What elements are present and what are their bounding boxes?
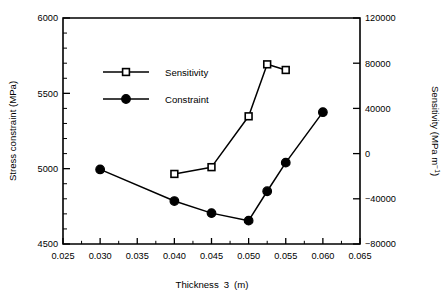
data-point: [282, 67, 289, 74]
y-tick-label: 4500: [38, 239, 58, 249]
legend-marker-open-square: [123, 69, 130, 76]
legend-label: Constraint: [165, 94, 209, 105]
y2-tick-label: −80000: [365, 239, 396, 249]
y-axis-left-title: Stress constraint (MPa): [7, 81, 18, 181]
data-point: [171, 171, 178, 178]
y-tick-label: 5000: [38, 164, 58, 174]
data-point: [281, 158, 290, 167]
y-axis-right-title: Sensitivity (MPa m−1): [430, 86, 441, 176]
x-tick-label: 0.055: [274, 251, 297, 261]
legend-marker-filled-circle: [122, 95, 131, 104]
x-tick-label: 0.040: [163, 251, 186, 261]
y-axis-right-title-main: Sensitivity (MPa m: [430, 86, 441, 165]
x-tick-label: 0.045: [200, 251, 223, 261]
data-point: [319, 108, 328, 117]
y2-tick-label: 0: [365, 149, 370, 159]
x-axis-title-part2: 3: [224, 279, 229, 290]
x-axis-title-part3: (m): [234, 279, 248, 290]
legend-label: Sensitivity: [165, 67, 208, 78]
data-point: [244, 216, 253, 225]
data-point: [264, 61, 271, 68]
y2-tick-label: 40000: [365, 104, 391, 114]
data-point: [96, 165, 105, 174]
data-point: [207, 209, 216, 218]
data-point: [170, 197, 179, 206]
x-tick-label: 0.030: [89, 251, 112, 261]
x-tick-label: 0.025: [52, 251, 75, 261]
x-axis-title-part1: Thickness: [176, 279, 219, 290]
data-point: [245, 113, 252, 120]
x-axis-title: Thickness3(m): [176, 279, 249, 290]
chart-figure: 0.0250.0300.0350.0400.0450.0500.0550.060…: [0, 0, 444, 301]
y2-tick-label: 120000: [365, 13, 396, 23]
x-axis-tick-labels: 0.0250.0300.0350.0400.0450.0500.0550.060…: [52, 251, 372, 261]
y-tick-label: 6000: [38, 13, 58, 23]
x-tick-label: 0.050: [237, 251, 260, 261]
x-tick-label: 0.060: [311, 251, 334, 261]
x-tick-label: 0.035: [126, 251, 149, 261]
x-tick-label: 0.065: [349, 251, 372, 261]
y-axis-right-title-tail: ): [430, 173, 441, 176]
data-point: [263, 187, 272, 196]
y2-tick-label: 80000: [365, 59, 391, 69]
y2-tick-label: −40000: [365, 194, 396, 204]
y-tick-label: 5500: [38, 89, 58, 99]
stress-sensitivity-line-chart: 0.0250.0300.0350.0400.0450.0500.0550.060…: [0, 0, 444, 301]
data-point: [208, 164, 215, 171]
